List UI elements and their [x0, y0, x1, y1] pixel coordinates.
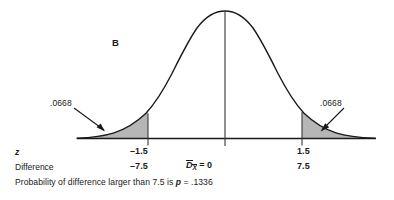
tick-value-z-right: 1.5 [297, 147, 310, 156]
panel-letter: B [112, 38, 119, 48]
left-tail-shading [77, 11, 225, 138]
normal-curve [77, 11, 375, 138]
tick-value-difference-right: 7.5 [297, 162, 310, 171]
center-mean-subscript: X [193, 165, 197, 172]
tick-value-difference-left: –7.5 [130, 162, 148, 171]
right-tail-shading [225, 11, 375, 138]
caption-suffix: = .1336 [181, 177, 213, 187]
left-annotation-arrow [74, 108, 105, 132]
caption-prefix: Probability of difference larger than 7.… [15, 177, 176, 187]
right-annotation-arrow [321, 108, 344, 132]
normal-distribution-figure: B .0668 .0668 z Difference –1.5 –7.5 1.5… [0, 0, 394, 200]
right-tail-probability-label: .0668 [320, 99, 342, 108]
tick-value-z-left: –1.5 [130, 147, 148, 156]
center-mean-label: DX = 0 [186, 161, 212, 172]
row-label-difference: Difference [15, 163, 54, 172]
left-tail-probability-label: .0668 [50, 99, 72, 108]
center-mean-equals: = 0 [197, 160, 212, 170]
row-label-z: z [15, 148, 19, 157]
figure-caption: Probability of difference larger than 7.… [15, 178, 213, 187]
